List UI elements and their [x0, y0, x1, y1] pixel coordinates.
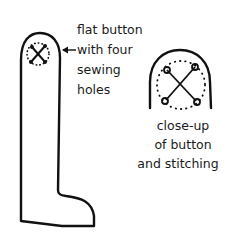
caption-line: of button — [154, 137, 211, 152]
caption-line: and stitching — [137, 156, 218, 171]
callout-label: flat button with four sewing holes — [77, 22, 147, 97]
closeup-fabric-outline — [150, 50, 211, 108]
caption-line: close-up — [157, 118, 210, 133]
diagram-canvas: flat button with four sewing holes close… — [0, 0, 246, 240]
callout-line: flat button — [77, 22, 143, 37]
callout-arrow-icon — [62, 47, 76, 54]
callout-line: sewing — [77, 62, 121, 77]
callout-line: with four — [77, 42, 133, 57]
callout-line: holes — [77, 82, 110, 97]
small-button-icon — [27, 43, 49, 65]
closeup-caption: close-up of button and stitching — [137, 118, 218, 171]
closeup-button-icon — [157, 61, 205, 109]
